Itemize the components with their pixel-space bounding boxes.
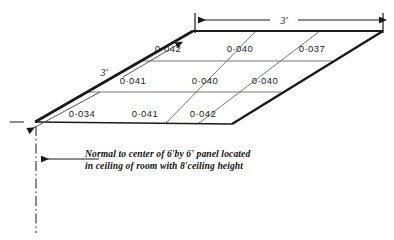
caption-line-1: Normal to center of 6'by 6' panel locate… [84, 148, 250, 159]
panel-grid: 0·042 0·040 0·037 0·041 0·040 0·040 0·03… [35, 31, 383, 124]
top-dimension-label: 3' [279, 15, 288, 26]
panel-grid-diagram: 0·042 0·040 0·037 0·041 0·040 0·040 0·03… [0, 0, 394, 240]
caption: Normal to center of 6'by 6' panel locate… [84, 148, 250, 171]
cell-value-r0c1: 0·040 [227, 43, 253, 54]
figure-page: 0·042 0·040 0·037 0·041 0·040 0·040 0·03… [0, 0, 394, 240]
cell-value-r0c0: 0·042 [155, 43, 181, 54]
centerline [10, 122, 36, 233]
cell-value-r2c2: 0·042 [190, 108, 216, 119]
caption-line-2: in ceiling of room with 8'ceiling height [85, 160, 243, 171]
diagonal-dimension-label: 3' [99, 67, 108, 78]
cell-value-r2c1: 0·041 [132, 108, 158, 119]
panel-edge-bottom [35, 122, 232, 124]
cell-value-r1c2: 0·040 [252, 75, 278, 86]
cell-value-r2c0: 0·034 [69, 108, 95, 119]
cell-value-r0c2: 0·037 [299, 43, 325, 54]
cell-value-r1c1: 0·040 [192, 75, 218, 86]
